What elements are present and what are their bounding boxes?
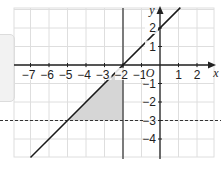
y-tick-label: 1 <box>149 40 156 54</box>
y-tick-label: 2 <box>149 21 156 35</box>
x-tick-label: 1 <box>175 68 182 82</box>
x-axis-label: x <box>212 66 219 80</box>
x-tick-label: 2 <box>194 68 201 82</box>
x-tick-label: −6 <box>40 68 54 82</box>
coordinate-graph: −7−6−5−4−3−2−11221−1−2−3−4Oyx <box>0 0 221 169</box>
x-tick-label: −7 <box>22 68 36 82</box>
x-tick-label: −3 <box>96 68 110 82</box>
y-tick-label: −2 <box>142 95 156 109</box>
y-tick-label: −3 <box>142 114 156 128</box>
x-tick-label: −5 <box>59 68 73 82</box>
y-tick-label: −4 <box>142 132 156 146</box>
x-tick-label: −4 <box>77 68 91 82</box>
y-axis-label: y <box>148 3 155 17</box>
origin-label: O <box>146 66 155 80</box>
tick-labels: −7−6−5−4−3−2−11221−1−2−3−4Oyx <box>22 3 220 146</box>
x-tick-label: −2 <box>114 68 128 82</box>
